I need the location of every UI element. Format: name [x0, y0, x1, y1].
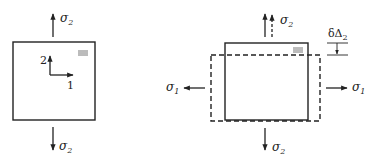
top-stress-subscript: 2	[287, 20, 293, 29]
displacement-label: δΔ	[328, 27, 343, 40]
svg-text:σ1: σ1	[166, 80, 179, 96]
axis-2-label: 2	[40, 54, 47, 67]
axis-1-label: 1	[67, 79, 74, 92]
fiber-hatch-icon	[78, 51, 88, 55]
right-stress-subscript: 1	[360, 87, 365, 96]
right-element: σ2 σ2 σ1 σ1 δΔ2	[166, 13, 365, 156]
svg-text:δΔ2: δΔ2	[328, 27, 348, 42]
svg-text:σ2: σ2	[59, 139, 72, 155]
left-stress-subscript: 1	[174, 87, 179, 96]
bottom-stress-subscript: 2	[279, 147, 285, 156]
deformed-shape	[211, 55, 320, 121]
svg-text:σ2: σ2	[60, 11, 73, 27]
displacement-subscript: 2	[343, 33, 348, 42]
fiber-hatch-icon	[293, 48, 303, 52]
svg-text:σ2: σ2	[280, 13, 293, 29]
displacement-dimension	[327, 43, 348, 55]
svg-text:σ1: σ1	[352, 80, 365, 96]
svg-text:σ2: σ2	[272, 140, 285, 156]
diagram-svg: 2 1 σ2 σ2 σ2 σ2 σ1	[0, 0, 371, 163]
bottom-stress-subscript: 2	[66, 146, 72, 155]
element-square	[13, 42, 95, 120]
left-element: 2 1 σ2 σ2	[13, 11, 95, 155]
top-stress-subscript: 2	[67, 18, 73, 27]
stress-diagram: 2 1 σ2 σ2 σ2 σ2 σ1	[0, 0, 371, 163]
